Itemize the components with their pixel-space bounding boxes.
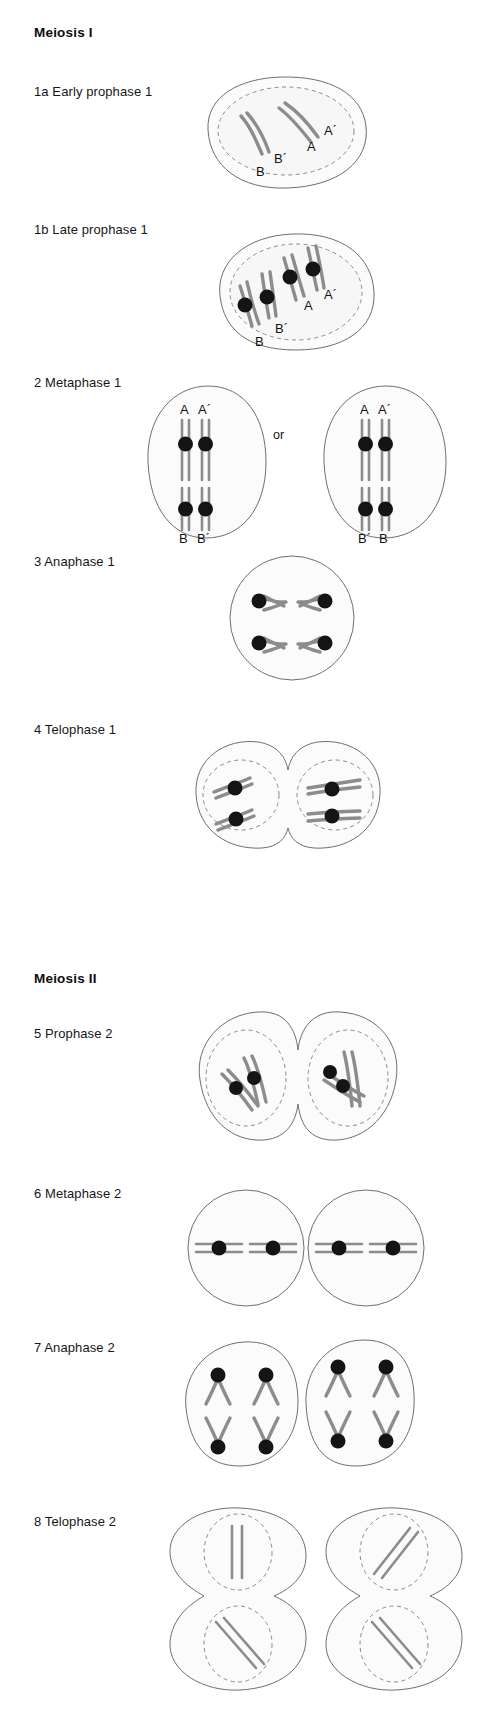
figure-early-prophase-1: A´ A B´ B — [178, 68, 378, 196]
figure-metaphase-2 — [184, 1186, 424, 1314]
stage-label-late-prophase-1: 1b Late prophase 1 — [34, 222, 148, 237]
daughter-cell-metaphase2-right — [308, 1190, 424, 1306]
chromosome-label-A-m1-right: A — [360, 402, 369, 417]
stage-label-metaphase-2: 6 Metaphase 2 — [34, 1186, 121, 1201]
figure-metaphase-1-right: A A´ — [310, 378, 460, 546]
section-heading-meiosis-2: Meiosis II — [34, 971, 97, 986]
daughter-cell-anaphase2-left — [186, 1342, 298, 1466]
figure-metaphase-1-left: A A´ — [136, 378, 276, 546]
figure-prophase-2 — [188, 1002, 408, 1148]
stage-label-early-prophase-1: 1a Early prophase 1 — [34, 84, 152, 99]
chromosome-label-B-prime-1b: B´ — [275, 321, 288, 336]
stage-label-telophase-1: 4 Telophase 1 — [34, 722, 116, 737]
chromosome-label-A-prime-1b: A´ — [324, 287, 337, 302]
daughter-cell-anaphase2-right — [306, 1340, 414, 1466]
stage-label-prophase-2: 5 Prophase 2 — [34, 1026, 113, 1041]
chromosome-label-B-m1-right: B — [379, 531, 388, 546]
centromere-A-prime — [306, 262, 321, 277]
chromosome-label-A-prime-m1-right: A´ — [378, 402, 391, 417]
cell-anaphase-1 — [230, 556, 354, 680]
daughter-cell-metaphase2-left — [188, 1190, 304, 1306]
meiosis-diagram: Meiosis I 1a Early prophase 1 A´ A B´ B — [0, 0, 501, 1712]
daughter-cell-telophase2-right — [326, 1508, 462, 1690]
chromosome-label-B-1a: B — [256, 164, 265, 179]
figure-late-prophase-1: A´ A B´ B — [200, 226, 390, 356]
figure-telophase-2 — [158, 1502, 468, 1702]
cell-1b: A´ A B´ B — [220, 234, 374, 350]
stage-label-metaphase-1: 2 Metaphase 1 — [34, 375, 121, 390]
centromere-B — [238, 298, 253, 313]
cell-1a: A´ A B´ B — [208, 77, 366, 188]
figure-telophase-1 — [178, 732, 398, 860]
chromosome-label-B-1b: B — [255, 334, 264, 349]
stage-label-anaphase-2: 7 Anaphase 2 — [34, 1340, 115, 1355]
chromosome-label-B-prime-m1-left: B´ — [197, 531, 210, 546]
centromere-A — [283, 270, 298, 285]
chromosome-label-A-1a: A — [307, 139, 316, 154]
chromosome-label-A-1b: A — [304, 298, 313, 313]
cell-metaphase-1-left: A A´ — [148, 386, 266, 546]
stage-label-anaphase-1: 3 Anaphase 1 — [34, 554, 115, 569]
daughter-cell-prophase2-left — [199, 1012, 397, 1140]
centromere-B-prime — [260, 290, 275, 305]
chromosome-label-B-prime-m1-right: B´ — [358, 531, 371, 546]
figure-anaphase-2 — [180, 1332, 420, 1474]
chromosome-label-B-m1-left: B — [179, 531, 188, 546]
daughter-cell-telophase1-left — [196, 741, 380, 848]
figure-anaphase-1 — [222, 548, 362, 688]
chromosome-label-B-prime-1a: B´ — [274, 151, 287, 166]
chromosome-label-A-prime-1a: A´ — [324, 123, 337, 138]
stage-label-telophase-2: 8 Telophase 2 — [34, 1514, 116, 1529]
section-heading-meiosis-1: Meiosis I — [34, 25, 93, 40]
daughter-cell-telophase2-left — [170, 1508, 306, 1690]
cell-metaphase-1-right: A A´ — [324, 386, 446, 546]
chromosome-label-A-prime-m1-left: A´ — [198, 402, 211, 417]
chromosome-label-A-m1-left: A — [180, 402, 189, 417]
